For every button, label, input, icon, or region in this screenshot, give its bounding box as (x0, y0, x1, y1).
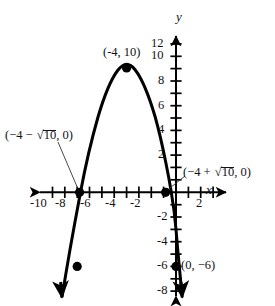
point-root-right (161, 188, 170, 197)
y-tick-label-neg6: -6 (157, 259, 167, 272)
sqrt-icon-right: √10 (214, 166, 234, 179)
y-tick-label-4: 4 (158, 123, 164, 136)
leader-line-root-left (58, 142, 78, 189)
vertex-label: (-4, 10) (103, 46, 141, 59)
y-tick-label-8: 8 (158, 74, 164, 87)
point-vertex (122, 63, 131, 72)
point-extra (73, 262, 82, 271)
root-right-label: (−4 + √10, 0) (183, 166, 251, 179)
y-axis-ticks (170, 44, 181, 291)
x-tick-label-neg10: -10 (30, 197, 47, 210)
x-tick-label-neg2: -2 (130, 197, 140, 210)
x-axis-label: x (206, 183, 212, 196)
point-y-intercept (171, 262, 180, 271)
y-axis-label: y (176, 10, 182, 23)
y-tick-label-10: 10 (151, 49, 164, 62)
x-tick-label-2: 2 (196, 197, 202, 210)
y-tick-label-neg4: -4 (157, 235, 167, 248)
root-right-prefix: (−4 + (183, 165, 214, 179)
root-left-suffix: , 0) (56, 128, 73, 142)
y-tick-label-neg8: -8 (157, 284, 167, 297)
root-left-label: (−4 − √10, 0) (5, 129, 73, 142)
x-tick-label-neg6: -6 (80, 197, 90, 210)
root-right-suffix: , 0) (234, 165, 251, 179)
y-intercept-label: (0, −6) (181, 259, 215, 272)
y-tick-label-neg2: -2 (157, 210, 167, 223)
sqrt-icon-left: √10 (36, 129, 56, 142)
x-tick-label-neg4: -4 (105, 197, 115, 210)
x-tick-label-neg8: -8 (55, 197, 65, 210)
y-tick-label-2: 2 (158, 148, 164, 161)
y-axis (170, 36, 181, 296)
y-tick-label-6: 6 (158, 99, 164, 112)
graph-figure: x y -10 -8 -6 -4 -2 2 12 10 8 6 4 2 -2 -… (0, 0, 275, 306)
root-left-prefix: (−4 − (5, 128, 36, 142)
